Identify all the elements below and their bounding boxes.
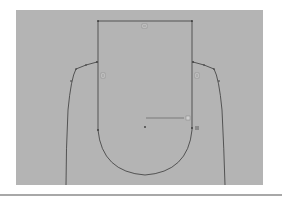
panel-divider <box>0 194 282 196</box>
coincident-relation-icon <box>186 116 190 120</box>
endpoint-right-shoulder[interactable] <box>192 61 194 63</box>
endpoint-left-shoulder[interactable] <box>96 61 98 63</box>
spline-point-right-1[interactable] <box>203 64 205 66</box>
endpoint-top-right[interactable] <box>191 20 193 22</box>
endpoint-top-left[interactable] <box>97 20 99 22</box>
sketch-geometry[interactable] <box>16 10 263 185</box>
endpoint-arc-right[interactable] <box>191 127 193 129</box>
right-shoulder-spline[interactable] <box>193 62 225 185</box>
arc-center-point[interactable] <box>144 126 146 128</box>
spline-point-left-3[interactable] <box>70 80 72 82</box>
spline-point-right-2[interactable] <box>213 68 215 70</box>
spline-point-left-2[interactable] <box>75 68 77 70</box>
spline-point-left-1[interactable] <box>85 64 87 66</box>
sketch-canvas[interactable] <box>16 10 263 185</box>
bottom-arc[interactable] <box>98 130 192 175</box>
tangent-relation-icon <box>195 126 199 130</box>
relation-glyphs <box>101 24 199 130</box>
endpoint-arc-left[interactable] <box>97 129 99 131</box>
spline-point-right-3[interactable] <box>218 80 220 82</box>
